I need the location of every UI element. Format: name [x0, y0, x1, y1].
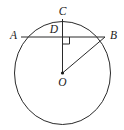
label-point-o: O — [58, 76, 67, 88]
label-point-a: A — [9, 29, 18, 41]
label-point-c: C — [59, 5, 67, 17]
geometry-diagram-canvas: A B C D O — [0, 0, 124, 130]
label-point-b: B — [110, 29, 117, 41]
center-point-dot — [61, 71, 64, 74]
label-point-d: D — [49, 23, 59, 35]
radius-ob-segment — [63, 37, 106, 73]
right-angle-marker — [63, 37, 70, 44]
geometry-figure: A B C D O — [0, 0, 124, 130]
